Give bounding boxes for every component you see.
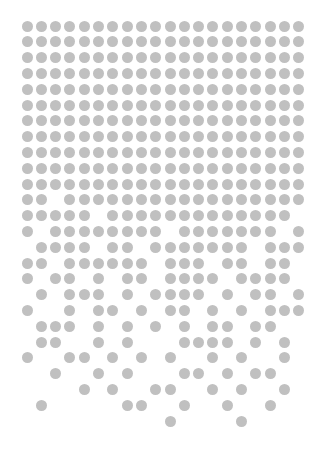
- dot: [107, 305, 118, 316]
- dot: [193, 273, 204, 284]
- dot: [222, 100, 233, 111]
- dot: [165, 416, 176, 427]
- dot: [179, 131, 190, 142]
- dot: [136, 84, 147, 95]
- dot: [293, 179, 304, 190]
- dot: [222, 321, 233, 332]
- dot: [165, 289, 176, 300]
- dot: [22, 84, 33, 95]
- dot: [93, 21, 104, 32]
- dot: [107, 194, 118, 205]
- dot: [136, 163, 147, 174]
- dot: [179, 163, 190, 174]
- dot: [136, 131, 147, 142]
- dot: [36, 400, 47, 411]
- dot: [207, 21, 218, 32]
- dot: [50, 115, 61, 126]
- dot: [122, 163, 133, 174]
- dot: [107, 352, 118, 363]
- dot: [64, 36, 75, 47]
- dot: [265, 36, 276, 47]
- dot: [179, 194, 190, 205]
- dot: [207, 36, 218, 47]
- dot: [179, 305, 190, 316]
- dot: [179, 147, 190, 158]
- dot: [265, 115, 276, 126]
- dot: [193, 258, 204, 269]
- dot: [22, 147, 33, 158]
- dot: [150, 131, 161, 142]
- dot: [279, 305, 290, 316]
- dot: [179, 36, 190, 47]
- dot: [150, 163, 161, 174]
- dot: [64, 115, 75, 126]
- dot: [107, 68, 118, 79]
- dot: [265, 368, 276, 379]
- dot: [136, 273, 147, 284]
- dot: [122, 194, 133, 205]
- dot: [50, 131, 61, 142]
- dot: [193, 100, 204, 111]
- dot: [122, 84, 133, 95]
- dot: [265, 179, 276, 190]
- dot: [222, 226, 233, 237]
- dot: [207, 147, 218, 158]
- dot: [179, 242, 190, 253]
- dot: [207, 179, 218, 190]
- dot: [64, 273, 75, 284]
- dot: [93, 226, 104, 237]
- dot: [22, 194, 33, 205]
- dot: [136, 400, 147, 411]
- dot: [236, 194, 247, 205]
- dot: [207, 352, 218, 363]
- dot: [64, 258, 75, 269]
- dot: [265, 68, 276, 79]
- dot: [122, 131, 133, 142]
- dot: [79, 179, 90, 190]
- dot: [79, 84, 90, 95]
- dot: [36, 163, 47, 174]
- dot: [236, 163, 247, 174]
- dot: [93, 289, 104, 300]
- dot: [179, 21, 190, 32]
- dot: [222, 400, 233, 411]
- dot: [136, 36, 147, 47]
- dissolving-dot-grid: [0, 0, 325, 453]
- dot: [265, 84, 276, 95]
- dot: [93, 321, 104, 332]
- dot: [222, 115, 233, 126]
- dot: [122, 68, 133, 79]
- dot: [236, 226, 247, 237]
- dot: [293, 52, 304, 63]
- dot: [107, 115, 118, 126]
- dot: [122, 36, 133, 47]
- dot: [22, 52, 33, 63]
- dot: [265, 226, 276, 237]
- dot: [222, 194, 233, 205]
- dot: [236, 68, 247, 79]
- dot: [107, 21, 118, 32]
- dot: [207, 131, 218, 142]
- dot: [93, 305, 104, 316]
- dot: [236, 52, 247, 63]
- dot: [107, 163, 118, 174]
- dot: [22, 115, 33, 126]
- dot: [22, 258, 33, 269]
- dot: [165, 179, 176, 190]
- dot: [179, 258, 190, 269]
- dot: [236, 384, 247, 395]
- dot: [165, 384, 176, 395]
- dot: [93, 163, 104, 174]
- dot: [250, 226, 261, 237]
- dot: [64, 352, 75, 363]
- dot: [193, 52, 204, 63]
- dot: [50, 368, 61, 379]
- dot: [222, 337, 233, 348]
- dot: [122, 52, 133, 63]
- dot: [207, 100, 218, 111]
- dot: [207, 321, 218, 332]
- dot: [36, 52, 47, 63]
- dot: [236, 36, 247, 47]
- dot: [250, 337, 261, 348]
- dot: [136, 194, 147, 205]
